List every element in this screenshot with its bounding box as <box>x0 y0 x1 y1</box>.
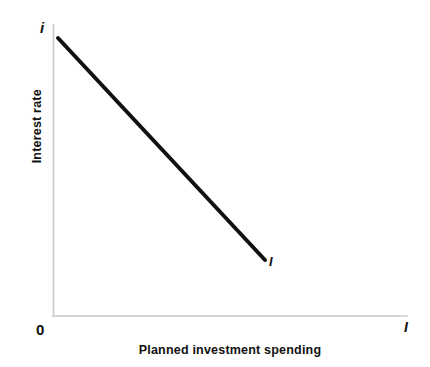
plot-area <box>0 0 430 367</box>
origin-label: 0 <box>36 322 44 337</box>
curve-label: I <box>269 255 273 268</box>
y-axis-title-text: Interest rate <box>31 89 44 163</box>
y-axis-title: Interest rate <box>0 120 50 133</box>
y-axis-end-label: i <box>40 20 44 35</box>
x-axis-end-label: I <box>404 320 408 334</box>
x-axis-title: Planned investment spending <box>53 344 407 357</box>
investment-demand-chart: i 0 I I Interest rate Planned investment… <box>0 0 430 367</box>
investment-demand-curve <box>58 38 265 260</box>
